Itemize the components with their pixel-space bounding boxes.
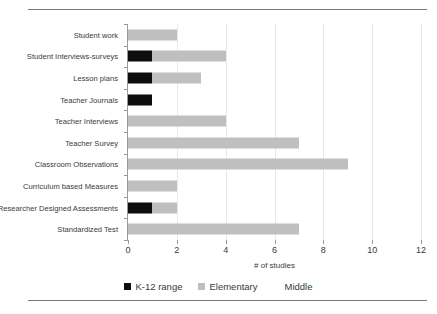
x-tick	[226, 240, 227, 244]
bar-segment	[128, 51, 152, 62]
bar-segment	[152, 72, 201, 83]
y-axis-labels: Student workStudent Interviews-surveysLe…	[0, 24, 124, 240]
y-axis-label: Curriculum based Measures	[23, 182, 118, 191]
x-tick	[323, 240, 324, 244]
bar-segment	[152, 51, 225, 62]
legend-item[interactable]: Elementary	[198, 281, 257, 292]
bar-segment	[128, 202, 152, 213]
legend-label: Elementary	[209, 281, 257, 292]
bar-segment	[128, 180, 177, 191]
y-axis-label: Teacher Survey	[65, 138, 118, 147]
gridline-12	[421, 24, 422, 240]
bar-row	[128, 46, 421, 68]
bar-row	[128, 67, 421, 89]
bar-segment	[128, 72, 152, 83]
y-tick	[124, 175, 128, 176]
bar-segment	[152, 202, 176, 213]
y-tick	[124, 132, 128, 133]
y-axis-label: Lesson plans	[73, 74, 118, 83]
x-tick	[177, 240, 178, 244]
legend-label: K-12 range	[135, 281, 182, 292]
bar-segment	[128, 29, 177, 40]
y-tick	[124, 197, 128, 198]
bar-row	[128, 89, 421, 111]
x-tick	[275, 240, 276, 244]
bar-segment	[128, 94, 152, 105]
legend-swatch-icon	[198, 283, 205, 290]
x-tick-label: 8	[321, 245, 326, 255]
bar-row	[128, 110, 421, 132]
bar-row	[128, 218, 421, 240]
x-tick-label: 6	[272, 245, 277, 255]
x-axis-title: # of studies	[128, 261, 421, 270]
x-tick	[128, 240, 129, 244]
chart-figure: Student workStudent Interviews-surveysLe…	[0, 0, 437, 314]
x-tick-label: 12	[416, 245, 426, 255]
y-tick	[124, 218, 128, 219]
y-axis-label: Classroom Observations	[35, 160, 118, 169]
y-tick	[124, 89, 128, 90]
bar-segment	[128, 137, 299, 148]
y-axis-label: Researcher Designed Assessments	[0, 203, 118, 212]
chart-legend: K-12 rangeElementaryMiddle	[0, 278, 437, 294]
y-tick	[124, 110, 128, 111]
bar-row	[128, 24, 421, 46]
chart-title	[0, 0, 437, 3]
x-axis: 024681012	[128, 240, 421, 262]
x-tick-label: 0	[125, 245, 130, 255]
legend-item[interactable]: Middle	[274, 281, 313, 292]
bar-segment	[128, 159, 348, 170]
x-tick-label: 10	[367, 245, 377, 255]
y-axis-label: Teacher Journals	[60, 95, 118, 104]
bar-segment	[128, 116, 226, 127]
y-axis-label: Student work	[74, 30, 118, 39]
bar-segment	[128, 224, 299, 235]
legend-swatch-icon	[274, 283, 281, 290]
plot-area	[128, 24, 421, 240]
figure-bottom-rule	[28, 300, 427, 301]
x-tick	[372, 240, 373, 244]
bar-row	[128, 154, 421, 176]
y-tick	[124, 46, 128, 47]
figure-top-rule	[28, 9, 427, 10]
legend-swatch-icon	[124, 283, 131, 290]
x-tick-label: 2	[174, 245, 179, 255]
bar-row	[128, 132, 421, 154]
y-tick	[124, 154, 128, 155]
y-tick	[124, 24, 128, 25]
legend-label: Middle	[285, 281, 313, 292]
y-tick	[124, 67, 128, 68]
legend-item[interactable]: K-12 range	[124, 281, 182, 292]
y-axis-label: Teacher Interviews	[55, 117, 118, 126]
y-axis-label: Standardized Test	[57, 225, 118, 234]
y-axis-label: Student Interviews-surveys	[27, 52, 118, 61]
bar-row	[128, 197, 421, 219]
x-tick-label: 4	[223, 245, 228, 255]
bar-row	[128, 175, 421, 197]
x-tick	[421, 240, 422, 244]
